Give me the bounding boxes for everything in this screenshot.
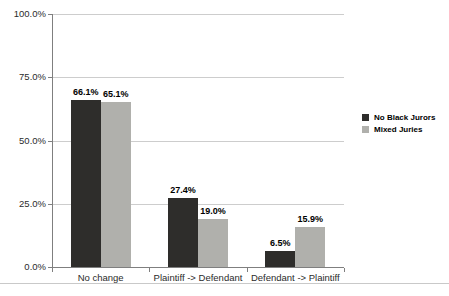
legend: No Black Jurors Mixed Juries [362, 113, 435, 137]
legend-label-mixed-juries: Mixed Juries [374, 125, 422, 134]
legend-label-no-black-jurors: No Black Jurors [374, 113, 435, 122]
y-axis-tick-label: 75.0% [6, 71, 46, 83]
legend-swatch-mixed-juries [362, 126, 369, 133]
bar-mixed-juries-0 [101, 102, 131, 267]
y-axis-line [52, 14, 53, 268]
bar-mixed-juries-1 [198, 219, 228, 267]
y-axis-tick-label: 50.0% [6, 135, 46, 147]
value-label-1-0: 65.1% [94, 89, 138, 100]
y-axis-tick-label: 100.0% [6, 8, 46, 20]
value-label-0-1: 27.4% [161, 185, 205, 196]
bar-mixed-juries-2 [295, 227, 325, 267]
x-axis-tick-mark [344, 268, 345, 272]
x-axis-category-label: Defendant -> Plaintiff [247, 272, 344, 284]
bar-no-black-jurors-2 [265, 251, 295, 267]
x-axis-category-label: No change [52, 272, 149, 284]
x-axis-category-label: Plaintiff -> Defendant [149, 272, 246, 284]
y-axis-tick-label: 0.0% [6, 261, 46, 273]
gridline-75 [52, 77, 344, 78]
gridline-100 [52, 14, 344, 15]
value-label-1-2: 15.9% [288, 214, 332, 225]
legend-swatch-no-black-jurors [362, 114, 369, 121]
x-axis-line [52, 267, 344, 268]
value-label-1-1: 19.0% [191, 206, 235, 217]
legend-item-no-black-jurors: No Black Jurors [362, 113, 435, 122]
bar-no-black-jurors-0 [71, 100, 101, 267]
legend-item-mixed-juries: Mixed Juries [362, 125, 435, 134]
y-axis-tick-label: 25.0% [6, 198, 46, 210]
bar-chart: No Black Jurors Mixed Juries 0.0%25.0%50… [0, 0, 449, 296]
